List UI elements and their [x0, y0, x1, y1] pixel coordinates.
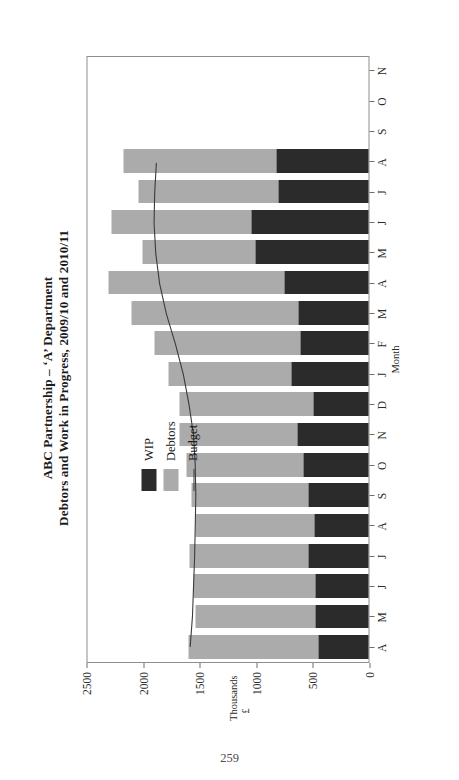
y-axis-unit: £ — [239, 701, 251, 721]
x-tick-label: J — [375, 585, 387, 589]
x-tick-label: A — [375, 522, 387, 530]
x-tick-label: J — [375, 190, 387, 194]
legend-swatch-debtors-icon — [163, 469, 178, 491]
x-tick-mark — [369, 495, 374, 496]
y-tick-label: 1500 — [193, 672, 205, 723]
page-number: 259 — [0, 751, 459, 766]
y-tick-mark — [143, 663, 144, 668]
chart-legend: WIP Debtors Budget — [141, 421, 200, 491]
x-tick-mark — [369, 404, 374, 405]
x-tick-label: M — [375, 612, 387, 622]
x-tick-mark — [369, 525, 374, 526]
budget-line-layer — [87, 57, 369, 662]
x-tick-label: O — [375, 97, 387, 105]
legend-swatch-wip-icon — [141, 469, 156, 491]
x-tick-label: F — [375, 341, 387, 347]
x-tick-label: M — [375, 248, 387, 258]
x-tick-label: S — [375, 493, 387, 499]
y-tick-label: 1000 — [250, 672, 262, 723]
x-axis-title: Month — [389, 56, 400, 663]
x-tick-label: J — [375, 221, 387, 225]
legend-label-wip: WIP — [141, 438, 156, 461]
x-tick-mark — [369, 374, 374, 375]
y-axis-title-label: Thousands — [227, 676, 238, 722]
legend-label-budget: Budget — [185, 425, 200, 461]
plot-area — [86, 56, 369, 663]
x-tick-mark — [369, 647, 374, 648]
budget-line — [154, 163, 196, 647]
x-tick-label: A — [375, 158, 387, 166]
x-tick-label: N — [375, 67, 387, 75]
x-tick-label: A — [375, 644, 387, 652]
y-tick-mark — [256, 663, 257, 668]
chart-figure: ABC Partnership – ‘A’ Department Debtors… — [37, 33, 422, 723]
y-tick-label: 2000 — [137, 672, 149, 723]
x-tick-mark — [369, 192, 374, 193]
y-tick-mark — [86, 663, 87, 668]
legend-item-wip: WIP — [141, 421, 156, 491]
rotated-figure-wrapper: ABC Partnership – ‘A’ Department Debtors… — [37, 33, 422, 723]
y-tick-mark — [199, 663, 200, 668]
y-tick-mark — [369, 663, 370, 668]
x-tick-mark — [369, 616, 374, 617]
x-tick-label: J — [375, 372, 387, 376]
x-tick-mark — [369, 434, 374, 435]
chart-title-block: ABC Partnership – ‘A’ Department Debtors… — [39, 33, 71, 723]
y-tick-label: 2500 — [80, 672, 92, 723]
x-tick-mark — [369, 465, 374, 466]
x-tick-mark — [369, 343, 374, 344]
x-tick-mark — [369, 313, 374, 314]
x-tick-label: N — [375, 431, 387, 439]
y-tick-mark — [312, 663, 313, 668]
x-tick-label: J — [375, 555, 387, 559]
legend-item-debtors: Debtors — [163, 421, 178, 491]
chart-title-line-2: Debtors and Work in Progress, 2009/10 an… — [55, 33, 71, 723]
x-tick-label: A — [375, 279, 387, 287]
printed-page: ABC Partnership – ‘A’ Department Debtors… — [0, 0, 459, 780]
x-tick-mark — [369, 252, 374, 253]
x-tick-mark — [369, 283, 374, 284]
y-axis-title: Thousands £ — [227, 701, 251, 721]
x-tick-label: D — [375, 401, 387, 409]
legend-item-budget: Budget — [185, 421, 200, 491]
legend-label-debtors: Debtors — [163, 421, 178, 461]
x-tick-mark — [369, 556, 374, 557]
legend-swatch-budget-icon — [185, 469, 200, 491]
x-tick-label: O — [375, 462, 387, 470]
x-tick-label: S — [375, 129, 387, 135]
x-tick-mark — [369, 101, 374, 102]
x-tick-mark — [369, 222, 374, 223]
x-tick-mark — [369, 586, 374, 587]
chart-title-line-1: ABC Partnership – ‘A’ Department — [39, 33, 55, 723]
x-tick-mark — [369, 161, 374, 162]
x-tick-label: M — [375, 309, 387, 319]
x-tick-mark — [369, 70, 374, 71]
x-tick-mark — [369, 131, 374, 132]
y-tick-label: 0 — [363, 672, 375, 723]
y-tick-label: 500 — [306, 672, 318, 723]
